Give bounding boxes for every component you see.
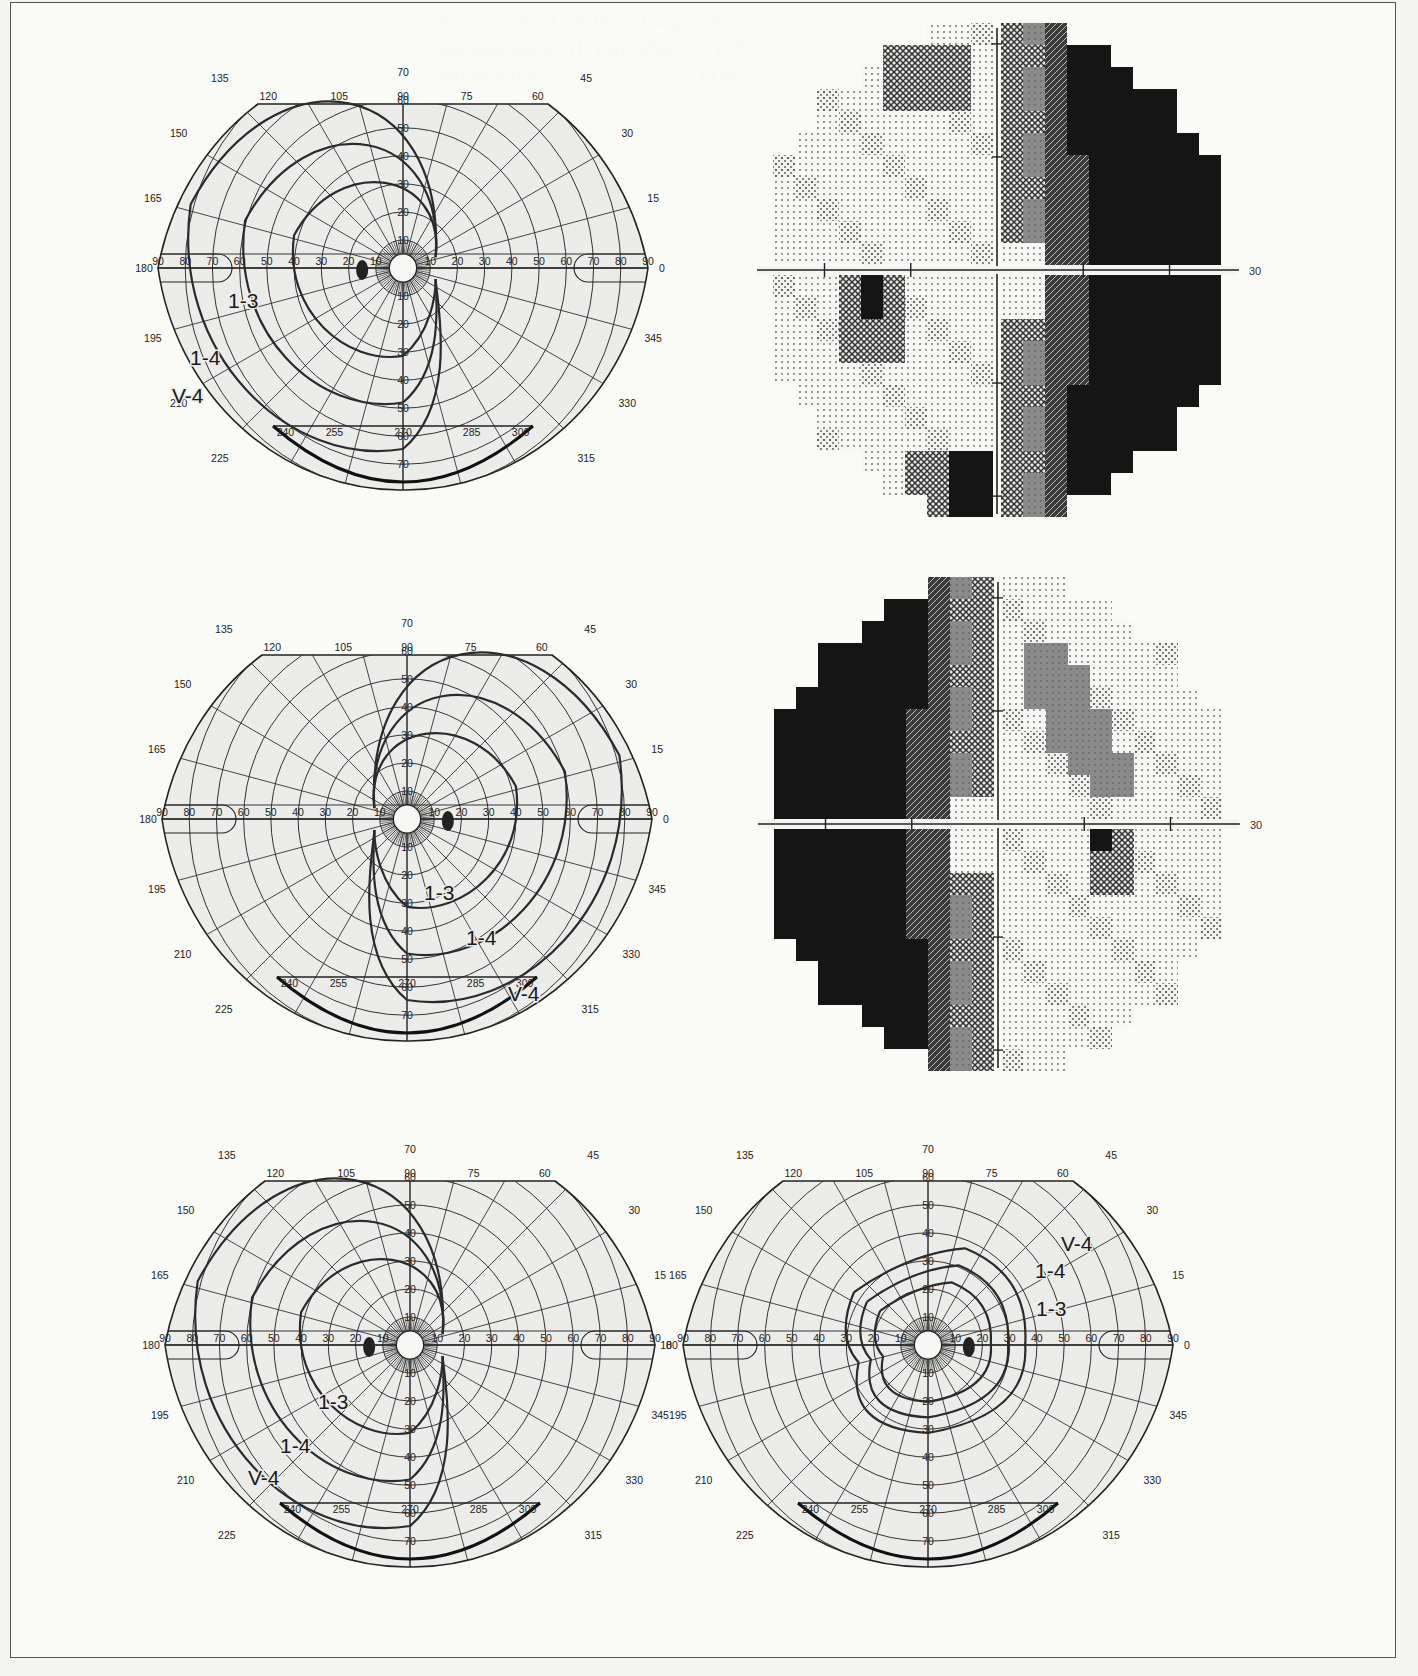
greyscale-field-top-right: 3030 [0, 0, 1418, 1676]
greyscale-visual-field: 3030 [0, 0, 1418, 1676]
greyscale-2-field: 30 [758, 577, 1262, 1071]
axis-label-30: 30 [1250, 819, 1262, 831]
axis-label-30: 30 [1249, 265, 1261, 277]
greyscale-1-field: 30 [757, 23, 1261, 517]
